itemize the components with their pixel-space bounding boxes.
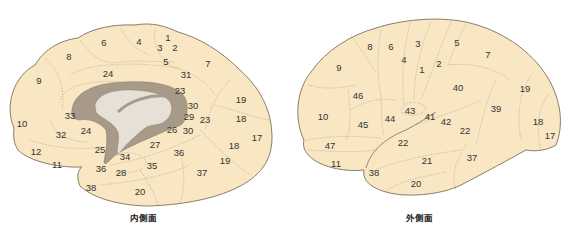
brodmann-area-label: 29 [184,112,195,122]
brodmann-area-label: 19 [236,95,247,105]
brodmann-area-label: 37 [197,168,208,178]
brodmann-area-label: 1 [165,33,170,43]
brodmann-area-label: 7 [485,50,490,60]
brodmann-area-label: 24 [81,126,92,136]
brodmann-area-label: 26 [167,125,178,135]
brodmann-area-label: 44 [385,114,396,124]
brodmann-area-label: 36 [174,148,185,158]
brodmann-area-label: 4 [401,55,406,65]
brodmann-area-label: 23 [200,115,211,125]
brodmann-area-label: 41 [425,112,436,122]
brodmann-area-label: 25 [95,145,106,155]
brodmann-area-label: 3 [415,39,420,49]
brodmann-area-label: 33 [65,111,76,121]
brodmann-area-label: 6 [101,38,106,48]
brodmann-area-label: 22 [398,138,409,148]
brodmann-area-label: 9 [336,63,341,73]
brodmann-area-label: 18 [533,117,544,127]
brodmann-area-label: 30 [188,101,199,111]
brodmann-area-label: 23 [175,86,186,96]
brodmann-area-label: 20 [411,179,422,189]
brodmann-area-label: 2 [436,59,441,69]
brodmann-area-label: 32 [56,130,67,140]
brodmann-area-label: 34 [120,152,131,162]
brodmann-area-label: 47 [325,141,336,151]
brodmann-area-label: 38 [86,183,97,193]
brodmann-area-label: 10 [318,112,329,122]
brodmann-area-label: 18 [236,114,247,124]
brodmann-area-label: 8 [66,52,71,62]
brodmann-area-label: 11 [52,160,62,170]
brodmann-area-label: 5 [163,57,168,67]
brodmann-area-label: 43 [405,106,416,116]
brodmann-area-label: 30 [183,126,194,136]
brodmann-area-label: 3 [157,43,162,53]
brodmann-area-label: 31 [181,70,192,80]
brodmann-area-label: 39 [491,104,502,114]
brodmann-area-label: 45 [358,120,369,130]
brodmann-area-label: 42 [441,117,452,127]
brodmann-area-label: 17 [545,131,556,141]
brodmann-area-label: 40 [453,83,464,93]
brodmann-area-label: 35 [147,161,158,171]
medial-surface-caption: 内側面 [130,211,157,223]
brodmann-area-label: 36 [96,164,107,174]
brodmann-area-label: 20 [135,187,146,197]
brodmann-area-label: 46 [353,91,364,101]
brodmann-area-label: 10 [17,119,28,129]
brodmann-area-label: 27 [150,140,161,150]
lateral-surface-caption: 外側面 [406,211,433,223]
brodmann-area-label: 18 [229,141,240,151]
brodmann-area-label: 19 [220,156,231,166]
brodmann-area-label: 4 [136,37,141,47]
brodmann-area-label: 12 [31,147,42,157]
brodmann-area-label: 19 [520,84,531,94]
brodmann-area-label: 5 [454,38,459,48]
brodmann-area-label: 37 [467,153,478,163]
lateral-brain-panel: 8635412794019464339104144454218221722472… [286,0,572,233]
brodmann-area-label: 6 [388,42,393,52]
medial-brain-panel: 1234567892431231930332923181024263032172… [0,0,286,233]
brodmann-area-label: 28 [116,168,127,178]
brodmann-area-label: 21 [422,156,433,166]
brodmann-area-label: 24 [103,69,114,79]
brodmann-area-label: 8 [367,42,372,52]
brodmann-area-label: 9 [36,76,41,86]
brodmann-area-label: 11 [331,159,341,169]
brodmann-area-label: 7 [205,59,210,69]
brodmann-area-label: 22 [460,126,471,136]
brodmann-area-label: 1 [419,65,424,75]
brodmann-area-label: 2 [172,43,177,53]
brodmann-area-label: 38 [369,168,380,178]
brodmann-area-label: 17 [252,133,263,143]
